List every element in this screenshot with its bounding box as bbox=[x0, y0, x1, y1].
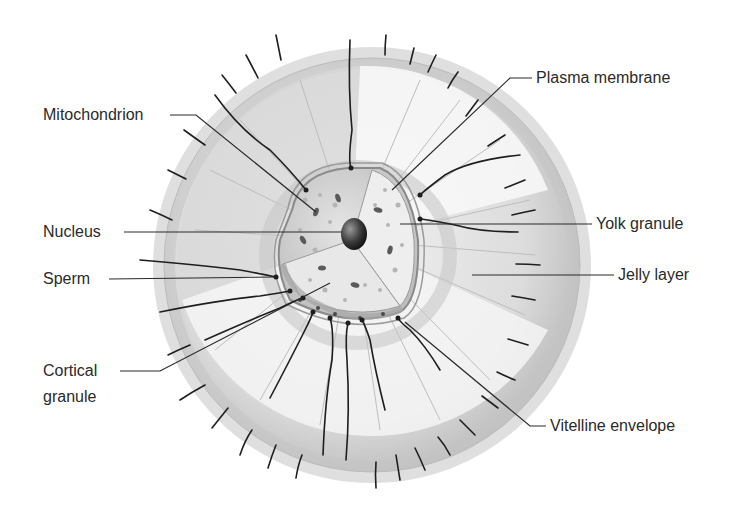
label-cortical-granule-line2: granule bbox=[43, 388, 96, 406]
sea-urchin-egg-diagram: Mitochondrion Nucleus Sperm Cortical gra… bbox=[0, 0, 743, 506]
label-sperm: Sperm bbox=[43, 270, 90, 288]
label-plasma-membrane: Plasma membrane bbox=[536, 69, 670, 87]
label-cortical-granule-line1: Cortical bbox=[43, 362, 97, 380]
label-nucleus: Nucleus bbox=[43, 223, 101, 241]
label-jelly-layer: Jelly layer bbox=[618, 266, 689, 284]
label-mitochondrion: Mitochondrion bbox=[43, 106, 144, 124]
nucleus-shape bbox=[341, 218, 367, 250]
label-vitelline-envelope: Vitelline envelope bbox=[550, 417, 675, 435]
label-yolk-granule: Yolk granule bbox=[596, 215, 683, 233]
